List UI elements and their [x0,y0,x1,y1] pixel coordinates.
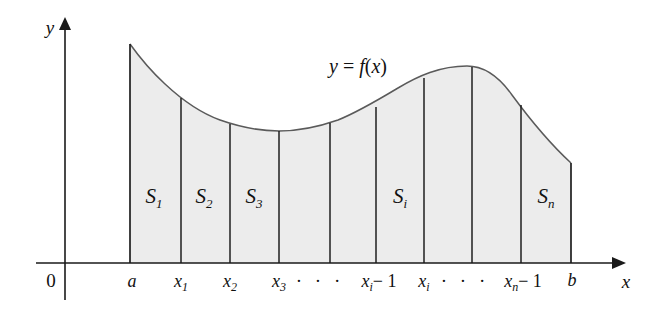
area-sub-S3: 3 [256,196,263,211]
origin-label: 0 [46,271,56,290]
tick-base-xi: x [418,271,426,291]
area-base-Si: S [393,184,404,208]
tick-op-xi-minus-1: − 1 [373,271,397,291]
curve-label-close-paren: ) [380,55,387,77]
tick-sub-x1: 1 [182,280,188,294]
riemann-sum-figure: y x 0 y = f(x) a x1 x2 x3 · · · xi− 1 xi… [0,0,649,322]
x-axis-label: x [622,272,630,291]
tick-sub-xn-minus-1: n [512,280,518,294]
tick-base-xi-minus-1: x [362,271,370,291]
area-base-S1: S [146,184,157,208]
tick-label-b: b [568,271,577,289]
area-sub-S1: 1 [156,196,163,211]
area-label-S3: S3 [246,186,263,207]
curve-label-y: y [329,55,338,77]
tick-sub-xi: i [426,280,429,294]
tick-label-x3: x3 [272,272,286,290]
curve-equation-label: y = f(x) [329,56,387,76]
tick-label-a: a [128,272,137,290]
area-base-Sn: S [538,184,549,208]
area-label-S1: S1 [146,186,163,207]
tick-base-a: a [128,271,137,291]
tick-base-b: b [568,270,577,290]
area-base-S2: S [196,184,207,208]
tick-base-x1: x [174,271,182,291]
tick-base-x2: x [223,271,231,291]
curve-label-arg: x [371,55,380,77]
x-axis-arrow-icon [612,257,626,269]
tick-label-xi-minus-1: xi− 1 [362,272,397,290]
y-axis-label: y [46,18,54,37]
tick-base-x3: x [272,271,280,291]
tick-label-x1: x1 [174,272,188,290]
curve-label-equals: = [338,55,359,77]
ellipsis-left: · · · [296,271,344,290]
tick-sub-x3: 3 [280,280,286,294]
area-sub-Sn: n [548,196,555,211]
tick-label-xn-minus-1: xn− 1 [504,272,542,290]
area-base-S3: S [246,184,257,208]
tick-label-xi: xi [418,272,429,290]
area-label-S2: S2 [196,186,213,207]
tick-sub-x2: 2 [231,280,237,294]
tick-label-x2: x2 [223,272,237,290]
area-label-Sn: Sn [538,186,555,207]
tick-sub-xi-minus-1: i [370,280,373,294]
tick-op-xn-minus-1: − 1 [518,271,542,291]
area-sub-Si: i [403,196,407,211]
area-label-Si: Si [393,186,407,207]
area-sub-S2: 2 [206,196,213,211]
ellipsis-right: · · · [441,271,489,290]
tick-base-xn-minus-1: x [504,271,512,291]
y-axis-arrow-icon [59,17,71,30]
